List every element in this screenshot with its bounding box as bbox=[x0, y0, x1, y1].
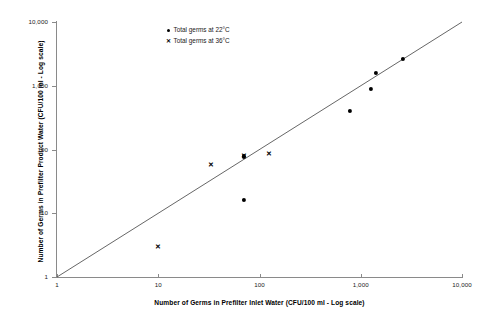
y-axis-tick bbox=[52, 150, 56, 151]
y-axis-tick bbox=[52, 213, 56, 214]
x-axis-tick-label: 1 bbox=[37, 281, 77, 288]
legend-item: Total germs at 22°C bbox=[164, 24, 230, 35]
y-axis-tick bbox=[52, 22, 56, 23]
y-axis-line bbox=[56, 21, 57, 278]
legend-item-label: Total germs at 22°C bbox=[173, 26, 230, 33]
x-axis-tick bbox=[361, 274, 362, 278]
cross-marker-icon: ✕ bbox=[266, 151, 272, 158]
circle-marker-icon bbox=[373, 71, 377, 75]
x-axis-tick-label: 1,000 bbox=[341, 281, 381, 288]
y-axis-tick bbox=[52, 86, 56, 87]
y-axis-tick-label: 10,000 bbox=[14, 18, 48, 25]
x-axis-tick-label: 100 bbox=[240, 281, 280, 288]
x-axis-tick bbox=[462, 274, 463, 278]
legend-item-label: Total germs at 36°C bbox=[173, 37, 230, 44]
legend-cross-icon: ✕ bbox=[164, 37, 173, 44]
x-axis-title: Number of Germs in Prefilter Inlet Water… bbox=[57, 299, 462, 306]
chart-legend: Total germs at 22°C✕Total germs at 36°C bbox=[164, 24, 230, 46]
circle-marker-icon bbox=[368, 87, 372, 91]
circle-marker-icon bbox=[242, 198, 246, 202]
cross-marker-icon: ✕ bbox=[241, 153, 247, 160]
legend-item: ✕Total germs at 36°C bbox=[164, 35, 230, 46]
chart-page: 1101001,00010,000 1101001,00010,000 Numb… bbox=[0, 0, 491, 320]
x-axis-tick bbox=[260, 274, 261, 278]
x-axis-tick-label: 10,000 bbox=[442, 281, 482, 288]
circle-marker-icon bbox=[348, 109, 352, 113]
cross-marker-icon: ✕ bbox=[208, 161, 214, 168]
x-axis-tick bbox=[158, 274, 159, 278]
circle-marker-icon bbox=[401, 57, 405, 61]
x-axis-tick-label: 10 bbox=[138, 281, 178, 288]
cross-marker-icon: ✕ bbox=[155, 243, 161, 250]
y-axis-tick bbox=[52, 277, 56, 278]
identity-reference-line bbox=[0, 0, 491, 320]
y-axis-title: Number of Germs in Prefilter Product Wat… bbox=[37, 27, 44, 277]
x-axis-tick bbox=[57, 274, 58, 278]
legend-circle-icon bbox=[164, 26, 173, 33]
